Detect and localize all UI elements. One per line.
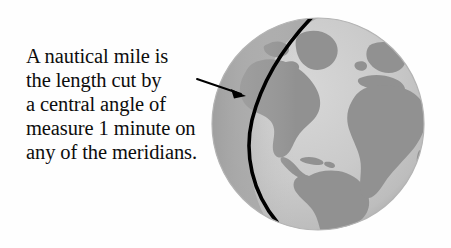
caption-text: A nautical mile is the length cut by a c… [26, 44, 226, 164]
caption-line-2: the length cut by [26, 68, 226, 92]
caption-line-5: any of the meridians. [26, 140, 226, 164]
caption-line-3: a central angle of [26, 92, 226, 116]
caption-line-1: A nautical mile is [26, 44, 226, 68]
globe-terminator-shade [212, 18, 332, 230]
nautical-mile-figure: A nautical mile is the length cut by a c… [0, 0, 451, 248]
caption-line-4: measure 1 minute on [26, 116, 226, 140]
